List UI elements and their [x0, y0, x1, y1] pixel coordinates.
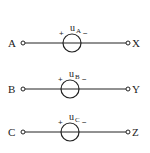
- terminal-label-x: X: [132, 37, 140, 49]
- voltage-subscript-b: B: [75, 73, 80, 81]
- terminal-label-y: Y: [132, 83, 140, 95]
- circuit-diagram: A + − u A X B + − u B Y C + − u C Z: [0, 0, 150, 153]
- terminal-z-icon: [126, 130, 130, 134]
- terminal-a-icon: [21, 41, 25, 45]
- voltage-symbol-a: u: [70, 22, 75, 33]
- source-row-a: A + − u A X: [8, 22, 140, 52]
- minus-sign-b: −: [82, 75, 87, 84]
- source-row-b: B + − u B Y: [8, 68, 140, 98]
- plus-sign-c: +: [58, 118, 63, 127]
- terminal-y-icon: [126, 87, 130, 91]
- plus-sign-b: +: [58, 75, 63, 84]
- minus-sign-c: −: [82, 118, 87, 127]
- terminal-x-icon: [126, 41, 130, 45]
- source-row-c: C + − u C Z: [8, 111, 139, 141]
- terminal-label-z: Z: [132, 126, 139, 138]
- terminal-c-icon: [21, 130, 25, 134]
- plus-sign-a: +: [59, 29, 64, 38]
- terminal-label-a: A: [8, 37, 16, 49]
- terminal-label-b: B: [8, 83, 15, 95]
- terminal-label-c: C: [8, 126, 15, 138]
- voltage-subscript-a: A: [76, 27, 81, 35]
- voltage-symbol-b: u: [69, 68, 74, 79]
- voltage-subscript-c: C: [75, 116, 80, 124]
- voltage-symbol-c: u: [69, 111, 74, 122]
- terminal-b-icon: [21, 87, 25, 91]
- minus-sign-a: −: [83, 29, 88, 38]
